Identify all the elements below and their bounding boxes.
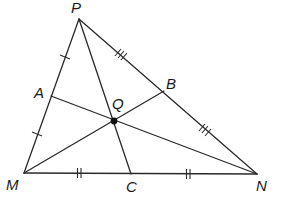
label-p: P	[71, 0, 81, 16]
label-m: M	[6, 176, 19, 193]
label-q: Q	[112, 95, 124, 112]
side-mn	[24, 173, 257, 174]
label-a: A	[33, 84, 44, 101]
label-n: N	[256, 177, 267, 194]
triangle-diagram: P A B Q M C N	[0, 0, 287, 212]
label-c: C	[126, 178, 137, 195]
tick-mark-pb	[115, 49, 127, 60]
point-q-dot	[111, 118, 118, 125]
label-b: B	[166, 75, 176, 92]
cevian-an	[51, 96, 257, 174]
diagram-canvas: P A B Q M C N	[0, 0, 287, 212]
side-np	[79, 19, 257, 174]
cevian-mb	[24, 91, 164, 173]
